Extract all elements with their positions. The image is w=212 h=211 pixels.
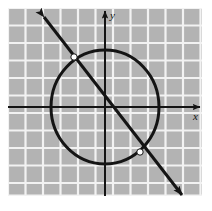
coordinate-plane-figure: x y xyxy=(0,0,212,211)
upper-left-intersection-point xyxy=(71,54,77,60)
y-axis-label: y xyxy=(109,9,115,21)
x-axis-label: x xyxy=(192,110,198,122)
lower-right-intersection-point xyxy=(137,149,143,155)
graph-svg: x y xyxy=(0,0,212,211)
